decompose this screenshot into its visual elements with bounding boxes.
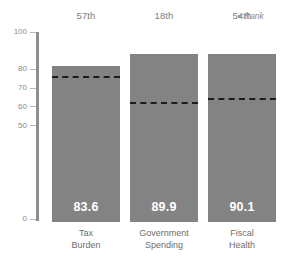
y-tick-mark-0 — [30, 219, 36, 220]
bar-group-tax-burden: 83.6 — [52, 30, 120, 222]
y-tick-80: 80 — [0, 63, 36, 75]
bar-value-tax-burden: 83.6 — [52, 200, 120, 214]
category-label-tax-burden-line2: Burden — [50, 240, 122, 252]
bar-group-fiscal-health: 90.1 — [208, 30, 276, 222]
plot-area: 100 80 70 60 50 0 83.6 — [0, 30, 282, 222]
y-tick-mark-80 — [30, 69, 36, 70]
category-label-row: Tax Burden Government Spending Fiscal He… — [0, 228, 282, 260]
y-tick-mark-100 — [30, 32, 36, 33]
bar-value-fiscal-health: 90.1 — [208, 200, 276, 214]
average-line-tax-burden — [52, 76, 120, 78]
y-tick-label-80: 80 — [18, 63, 27, 75]
average-line-government-spending — [130, 102, 198, 104]
category-label-fiscal-health: Fiscal Health — [206, 228, 278, 251]
y-tick-label-50: 50 — [18, 120, 27, 132]
rank-legend-dot-icon — [238, 15, 241, 18]
bar-value-government-spending: 89.9 — [130, 200, 198, 214]
category-label-government-spending-line2: Spending — [128, 240, 200, 252]
y-tick-100: 100 — [0, 26, 36, 38]
y-axis-line — [36, 32, 39, 221]
y-tick-60: 60 — [0, 101, 36, 113]
rank-value-tax-burden: 57th — [52, 9, 120, 23]
bar-government-spending[interactable]: 89.9 — [130, 54, 198, 222]
category-label-tax-burden: Tax Burden — [50, 228, 122, 251]
chart-container: 57th 18th 54th Rank 100 80 70 60 50 0 — [0, 0, 282, 263]
category-label-tax-burden-line1: Tax — [50, 228, 122, 240]
average-line-fiscal-health — [208, 98, 276, 100]
category-label-government-spending: Government Spending — [128, 228, 200, 251]
bar-tax-burden[interactable]: 83.6 — [52, 66, 120, 222]
rank-legend-label: Rank — [244, 11, 264, 21]
category-label-government-spending-line1: Government — [128, 228, 200, 240]
y-tick-label-60: 60 — [18, 101, 27, 113]
y-tick-label-0: 0 — [23, 213, 27, 225]
y-tick-mark-70 — [30, 88, 36, 89]
bar-fiscal-health[interactable]: 90.1 — [208, 54, 276, 223]
rank-row: 57th 18th 54th Rank — [0, 9, 282, 25]
y-tick-label-70: 70 — [18, 82, 27, 94]
y-tick-mark-50 — [30, 125, 36, 126]
category-label-fiscal-health-line2: Health — [206, 240, 278, 252]
category-label-fiscal-health-line1: Fiscal — [206, 228, 278, 240]
rank-value-government-spending: 18th — [130, 9, 198, 23]
y-tick-label-100: 100 — [14, 26, 27, 38]
y-tick-0: 0 — [0, 213, 36, 225]
y-tick-50: 50 — [0, 120, 36, 132]
bar-group-government-spending: 89.9 — [130, 30, 198, 222]
rank-legend: Rank — [238, 9, 264, 23]
y-tick-mark-60 — [30, 106, 36, 107]
y-tick-70: 70 — [0, 82, 36, 94]
